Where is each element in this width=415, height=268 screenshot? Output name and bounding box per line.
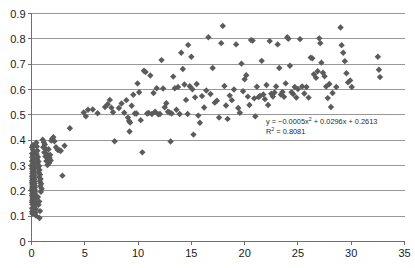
data-point <box>201 104 207 110</box>
x-tick-label: 0 <box>28 247 34 259</box>
x-tick-label: 30 <box>345 247 357 259</box>
x-tick-label: 35 <box>398 247 410 259</box>
data-point <box>94 110 100 116</box>
data-point <box>197 119 203 125</box>
y-tick-label: 0.1 <box>10 210 25 222</box>
data-point <box>61 143 67 149</box>
data-point <box>203 87 209 93</box>
data-point <box>274 41 280 47</box>
y-tick-label: 0.5 <box>10 109 25 121</box>
y-tick-label: 0.7 <box>10 58 25 70</box>
data-point <box>154 85 160 91</box>
data-point <box>90 106 96 112</box>
data-point <box>238 60 244 66</box>
data-point <box>375 54 381 60</box>
y-tick-label: 0 <box>19 236 25 248</box>
x-tick-label: 20 <box>239 247 251 259</box>
data-point <box>218 40 224 46</box>
data-point <box>305 94 311 100</box>
data-point <box>231 86 237 92</box>
data-point <box>265 102 271 108</box>
data-point <box>282 80 288 86</box>
data-point <box>193 81 199 87</box>
data-point <box>340 50 346 56</box>
data-point <box>178 50 184 56</box>
data-point <box>273 83 279 89</box>
data-point <box>181 81 187 87</box>
y-tick-label: 0.3 <box>10 160 25 172</box>
data-point <box>67 125 73 131</box>
data-point <box>258 58 264 64</box>
scatter-chart: 00.10.20.30.40.50.60.70.80.9 05101520253… <box>0 0 415 268</box>
data-point <box>245 93 251 99</box>
data-point <box>297 36 303 42</box>
data-point <box>139 149 145 155</box>
data-point <box>138 117 144 123</box>
data-point <box>216 114 222 120</box>
data-point <box>209 65 215 71</box>
data-point <box>207 91 213 97</box>
x-tick-label: 5 <box>82 247 88 259</box>
data-point <box>185 42 191 48</box>
plot-area: 00.10.20.30.40.50.60.70.80.9 05101520253… <box>0 0 415 268</box>
data-point <box>263 82 269 88</box>
data-point <box>190 131 196 137</box>
data-point <box>318 59 324 65</box>
data-point <box>128 103 134 109</box>
data-point <box>192 94 198 100</box>
y-tick-label: 0.8 <box>10 33 25 45</box>
y-axis-tick-labels: 00.10.20.30.40.50.60.70.80.9 <box>10 8 25 248</box>
axis-lines <box>32 14 405 242</box>
data-point <box>170 73 176 79</box>
data-point <box>150 90 156 96</box>
x-tick-label: 10 <box>132 247 144 259</box>
data-point <box>183 97 189 103</box>
data-point <box>342 58 348 64</box>
data-point <box>59 172 65 178</box>
data-point <box>246 102 252 108</box>
data-point <box>338 42 344 48</box>
equation-tail: + 0.0296x + 0.2613 <box>312 117 378 126</box>
data-point <box>188 54 194 60</box>
data-point <box>134 80 140 86</box>
data-point <box>136 89 142 95</box>
regression-equation-label: y = −0.0005x2 + 0.0296x + 0.2613 <box>266 116 377 126</box>
data-point <box>343 70 349 76</box>
data-point <box>377 74 383 80</box>
data-point <box>276 65 282 71</box>
r-squared-tail: = 0.8081 <box>274 127 305 136</box>
data-point <box>325 95 331 101</box>
data-point <box>223 102 229 108</box>
equation-lead: y = −0.0005x <box>266 117 309 126</box>
data-point <box>240 88 246 94</box>
data-point <box>328 104 334 110</box>
data-point <box>199 93 205 99</box>
x-tick-label: 15 <box>185 247 197 259</box>
data-point <box>123 97 129 103</box>
data-point <box>317 40 323 46</box>
data-point <box>376 67 382 73</box>
data-point <box>126 128 132 134</box>
data-point <box>329 90 335 96</box>
y-tick-label: 0.6 <box>10 84 25 96</box>
y-tick-label: 0.9 <box>10 8 25 20</box>
data-point <box>160 85 166 91</box>
r-squared-label: R2 = 0.8081 <box>266 126 305 136</box>
data-point <box>224 116 230 122</box>
data-point <box>180 66 186 72</box>
data-point <box>158 57 164 63</box>
data-point <box>220 23 226 29</box>
data-point <box>316 35 322 41</box>
data-point <box>147 72 153 78</box>
data-point <box>337 24 343 30</box>
data-point <box>235 105 241 111</box>
data-point <box>254 84 260 90</box>
x-tick-label: 25 <box>292 247 304 259</box>
data-point <box>301 90 307 96</box>
data-point <box>167 138 173 144</box>
data-point <box>111 138 117 144</box>
data-point <box>221 83 227 89</box>
data-point <box>252 113 258 119</box>
y-tick-label: 0.4 <box>10 134 25 146</box>
data-point <box>184 111 190 117</box>
